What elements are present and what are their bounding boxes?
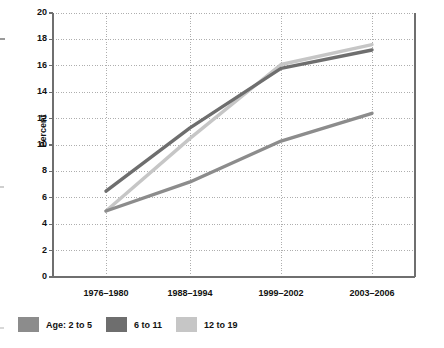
y-tick-label: 4 xyxy=(30,218,47,228)
y-tick-label: 2 xyxy=(30,245,47,255)
y-tick-label: 16 xyxy=(30,60,47,70)
x-tick-label: 1976–1980 xyxy=(61,288,151,298)
legend-item: Age: 2 to 5 xyxy=(18,317,92,332)
legend-label: 12 to 19 xyxy=(204,320,238,330)
y-tick-label: 14 xyxy=(30,86,47,96)
x-tick-label: 1999–2002 xyxy=(236,288,326,298)
chart-figure: Percent 02468101214161820 1976–19801988–… xyxy=(0,0,444,348)
legend-swatch xyxy=(106,317,127,332)
y-tick-label: 6 xyxy=(30,192,47,202)
legend-swatch xyxy=(176,317,197,332)
legend-item: 6 to 11 xyxy=(106,317,162,332)
y-tick-label: 18 xyxy=(30,33,47,43)
y-tick-label: 12 xyxy=(30,113,47,123)
legend-swatch xyxy=(18,317,39,332)
legend-item: 12 to 19 xyxy=(176,317,238,332)
series-line xyxy=(106,45,372,211)
y-tick-label: 0 xyxy=(30,271,47,281)
y-tick-label: 10 xyxy=(30,139,47,149)
y-tick-label: 8 xyxy=(30,165,47,175)
series-line xyxy=(106,50,372,191)
x-tick-label: 1988–1994 xyxy=(145,288,235,298)
legend-label: 6 to 11 xyxy=(134,320,162,330)
chart-legend: Age: 2 to 56 to 1112 to 19 xyxy=(18,317,252,332)
x-tick-label: 2003–2006 xyxy=(327,288,417,298)
y-tick-label: 20 xyxy=(30,7,47,17)
legend-label: Age: 2 to 5 xyxy=(46,320,92,330)
